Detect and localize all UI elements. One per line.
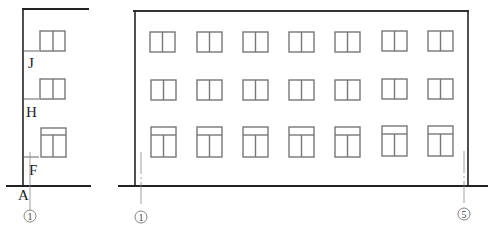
side-window-upper <box>40 31 65 51</box>
level-label-a: A <box>18 187 29 203</box>
axis-number-side-1: 1 <box>28 211 33 222</box>
front-elevation: 1 5 <box>118 11 488 223</box>
window-row-ground <box>151 126 453 157</box>
window-row-middle <box>151 79 453 100</box>
axis-number-front-1: 1 <box>139 212 144 223</box>
side-window-ground <box>41 128 66 157</box>
window-row-upper <box>150 31 453 52</box>
side-window-middle <box>40 79 65 99</box>
elevation-drawing: J H F A 1 <box>0 0 493 235</box>
level-label-h: H <box>26 104 37 120</box>
side-elevation: J H F A 1 <box>6 9 91 222</box>
axis-number-front-5: 5 <box>462 209 467 220</box>
level-label-j: J <box>28 55 34 71</box>
